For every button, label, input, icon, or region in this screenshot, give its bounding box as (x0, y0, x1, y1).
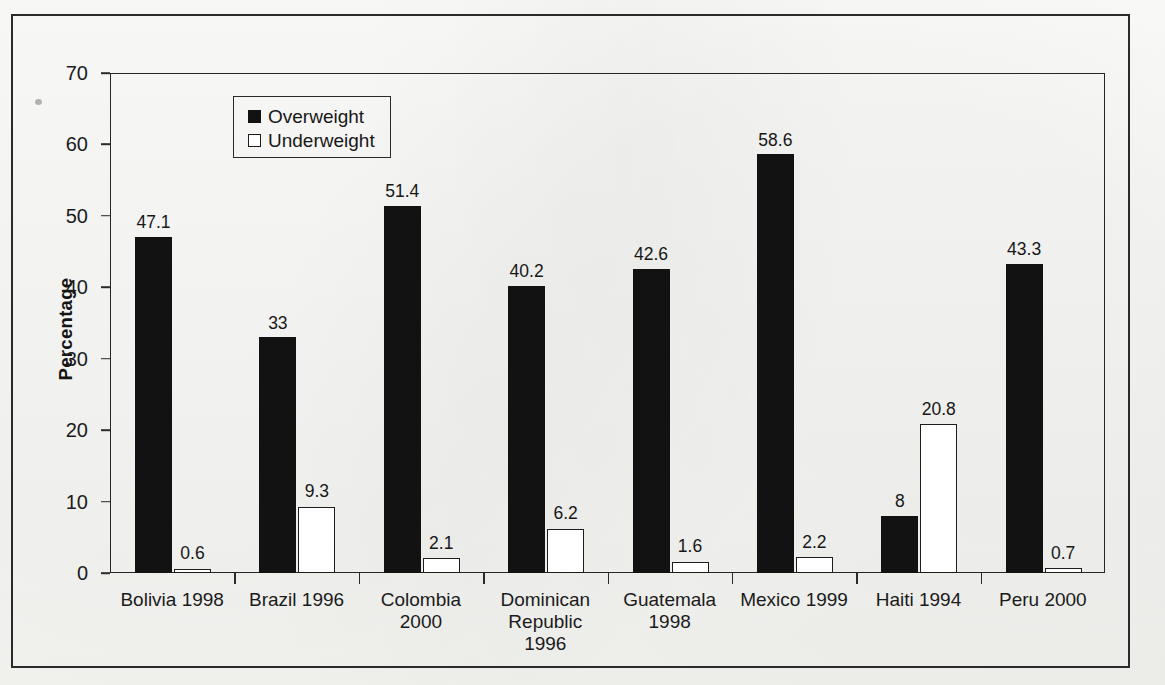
x-axis-category-label: Haiti 1994 (856, 589, 980, 611)
bar-value-label: 42.6 (634, 246, 668, 264)
grouped-bar-chart: Percentage 706050403020100 47.10.6339.35… (0, 0, 1165, 685)
bar-value-label: 0.6 (180, 545, 204, 563)
bar-underweight[interactable]: 0.7 (1045, 568, 1082, 573)
y-axis-tick-mark (101, 286, 110, 288)
bar-value-label: 20.8 (922, 401, 956, 419)
bar-value-label: 6.2 (553, 505, 577, 523)
y-axis-tick-mark (101, 144, 110, 146)
x-axis-tick-mark (608, 573, 610, 584)
y-axis-tick-mark (101, 572, 110, 574)
bar-group: 47.10.6 (110, 73, 234, 573)
y-axis: 706050403020100 (0, 0, 110, 646)
bar-group: 58.62.2 (732, 73, 856, 573)
y-axis-tick-mark (101, 501, 110, 503)
bar-underweight[interactable]: 9.3 (298, 507, 335, 573)
x-axis-category-label: Dominican Republic 1996 (483, 589, 607, 655)
bar-overweight[interactable]: 47.1 (135, 237, 172, 573)
y-axis-tick-label: 50 (66, 206, 88, 226)
bar-overweight[interactable]: 42.6 (633, 269, 670, 573)
bar-value-label: 8 (895, 493, 905, 511)
bar-underweight[interactable]: 6.2 (547, 529, 584, 573)
bar-overweight[interactable]: 40.2 (508, 286, 545, 573)
bar-underweight[interactable]: 2.2 (796, 557, 833, 573)
bar-underweight[interactable]: 20.8 (920, 424, 957, 573)
y-axis-tick-label: 20 (66, 420, 88, 440)
bar-overweight[interactable]: 33 (259, 337, 296, 573)
x-axis-tick-mark (359, 573, 361, 584)
bar-overweight[interactable]: 51.4 (384, 206, 421, 573)
bar-overweight[interactable]: 58.6 (757, 154, 794, 573)
bar-value-label: 9.3 (305, 483, 329, 501)
legend-swatch-underweight-icon (248, 134, 261, 147)
y-axis-tick-label: 0 (77, 563, 88, 583)
bar-value-label: 47.1 (136, 214, 170, 232)
legend-swatch-overweight-icon (248, 110, 261, 123)
bar-underweight[interactable]: 2.1 (423, 558, 460, 573)
y-axis-tick-label: 10 (66, 492, 88, 512)
x-axis-category-label: Peru 2000 (981, 589, 1105, 611)
x-axis-category-label: Colombia 2000 (359, 589, 483, 633)
y-axis-tick-label: 30 (66, 349, 88, 369)
bar-overweight[interactable]: 43.3 (1006, 264, 1043, 573)
legend-item-overweight: Overweight (248, 104, 390, 128)
y-axis-tick-mark (101, 72, 110, 74)
bar-value-label: 2.2 (802, 534, 826, 552)
bar-group: 42.61.6 (608, 73, 732, 573)
legend-label-underweight: Underweight (268, 131, 375, 150)
bar-value-label: 51.4 (385, 183, 419, 201)
chart-legend: Overweight Underweight (233, 96, 391, 158)
bar-group: 820.8 (856, 73, 980, 573)
y-axis-tick-label: 60 (66, 134, 88, 154)
bar-overweight[interactable]: 8 (881, 516, 918, 573)
x-axis-tick-mark (856, 573, 858, 584)
bar-value-label: 2.1 (429, 535, 453, 553)
x-axis-category-label: Guatemala 1998 (608, 589, 732, 633)
bar-value-label: 43.3 (1007, 241, 1041, 259)
x-axis-tick-mark (732, 573, 734, 584)
x-axis-tick-mark (981, 573, 983, 584)
bar-value-label: 0.7 (1051, 545, 1075, 563)
x-axis-category-label: Bolivia 1998 (110, 589, 234, 611)
x-axis-category-label: Mexico 1999 (732, 589, 856, 611)
y-axis-tick-label: 40 (66, 277, 88, 297)
x-axis-tick-mark (483, 573, 485, 584)
x-axis-category-label: Brazil 1996 (234, 589, 358, 611)
y-axis-tick-mark (101, 358, 110, 360)
legend-label-overweight: Overweight (268, 107, 364, 126)
x-axis-tick-mark (234, 573, 236, 584)
bar-group: 40.26.2 (483, 73, 607, 573)
bar-underweight[interactable]: 0.6 (174, 569, 211, 573)
bar-underweight[interactable]: 1.6 (672, 562, 709, 573)
bar-value-label: 1.6 (678, 538, 702, 556)
y-axis-tick-mark (101, 215, 110, 217)
y-axis-tick-mark (101, 429, 110, 431)
bar-group: 43.30.7 (981, 73, 1105, 573)
legend-item-underweight: Underweight (248, 128, 390, 152)
bar-value-label: 40.2 (510, 263, 544, 281)
bar-value-label: 58.6 (758, 132, 792, 150)
y-axis-tick-label: 70 (66, 63, 88, 83)
bar-value-label: 33 (268, 315, 287, 333)
